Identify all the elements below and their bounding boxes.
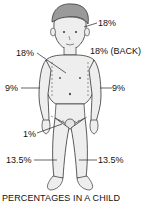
label-right-leg: 13.5% — [6, 155, 32, 165]
label-back: 18% (BACK) — [90, 46, 141, 56]
label-head: 18% — [98, 18, 116, 28]
label-left-leg: 13.5% — [98, 155, 124, 165]
figure-caption: PERCENTAGES IN A CHILD — [0, 193, 146, 201]
label-genitals: 1% — [23, 129, 36, 139]
label-left-arm: 9% — [112, 83, 125, 93]
label-right-arm: 9% — [5, 83, 18, 93]
child-body-figure — [0, 0, 146, 201]
label-front-trunk: 18% — [16, 48, 34, 58]
